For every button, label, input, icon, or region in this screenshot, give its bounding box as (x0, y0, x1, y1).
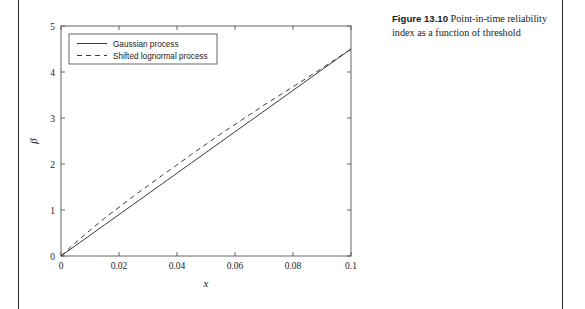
figure-caption: Figure 13.10 Point-in-time reliability i… (392, 12, 552, 39)
series-line-0 (61, 49, 351, 256)
x-tick-label: 0.08 (285, 261, 302, 271)
figure-caption-label: Figure 13.10 (392, 13, 448, 24)
legend-label-0: Gaussian process (113, 40, 179, 49)
figure-chart-area: 00.020.040.060.080.1012345xβGaussian pro… (19, 0, 379, 309)
y-tick-label: 5 (50, 22, 55, 32)
legend-label-1: Shifted lognormal process (113, 52, 208, 61)
y-tick-label: 4 (50, 68, 55, 78)
y-tick-label: 1 (50, 206, 55, 216)
y-axis-title: β (27, 138, 39, 145)
x-tick-label: 0.1 (345, 261, 357, 271)
x-tick-label: 0.04 (169, 261, 186, 271)
x-tick-label: 0.06 (227, 261, 244, 271)
y-tick-label: 3 (50, 114, 55, 124)
y-tick-label: 0 (50, 252, 55, 262)
x-tick-label: 0 (59, 261, 64, 271)
page-rule-right (562, 0, 563, 309)
x-axis-title: x (203, 277, 209, 289)
reliability-index-chart: 00.020.040.060.080.1012345xβGaussian pro… (19, 0, 379, 309)
y-tick-label: 2 (50, 160, 55, 170)
x-tick-label: 0.02 (111, 261, 128, 271)
